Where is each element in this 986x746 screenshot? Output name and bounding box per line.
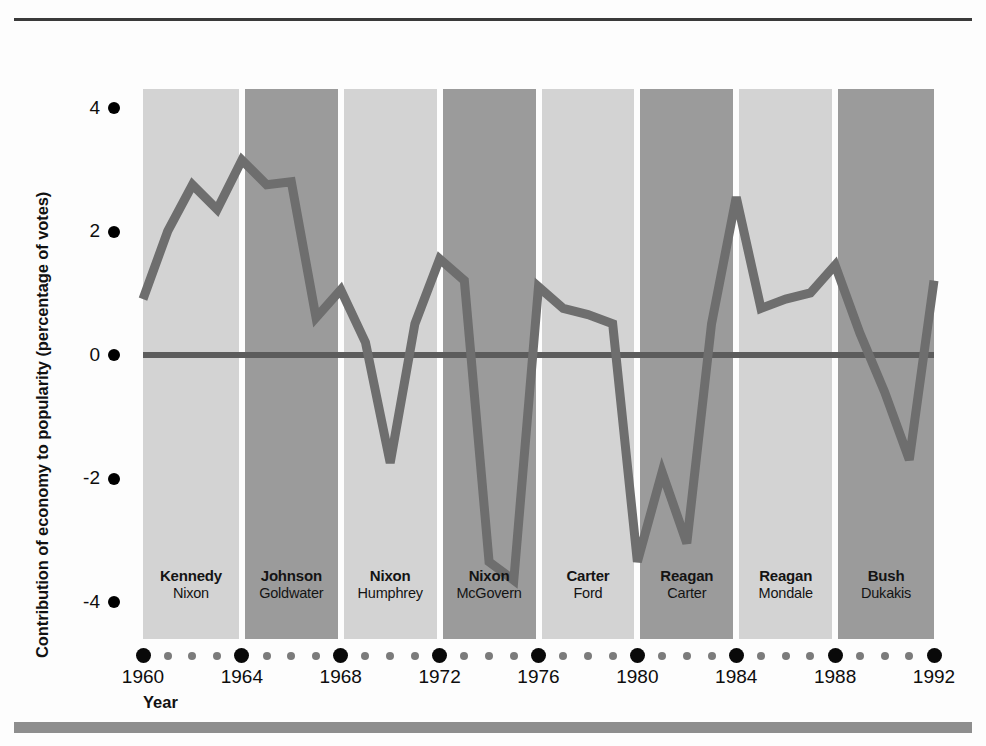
y-axis-tick-dot (108, 349, 120, 361)
y-axis-tick-label: 2 (89, 220, 100, 242)
x-axis-minor-tick-dot (559, 652, 567, 660)
x-axis-minor-tick-dot (881, 652, 889, 660)
election-winner-label: Bush (838, 567, 934, 585)
y-axis-tick-dot (108, 473, 120, 485)
x-axis-tick-label: 1960 (103, 666, 183, 688)
x-axis-tick-label: 1964 (202, 666, 282, 688)
x-axis-tick-label: 1988 (795, 666, 875, 688)
x-axis-major-tick-dot (136, 648, 151, 663)
election-loser-label: Ford (542, 585, 635, 602)
x-axis-minor-tick-dot (658, 652, 666, 660)
y-axis-title: Contribution of economy to popularity (p… (28, 18, 56, 658)
x-axis-major-tick-dot (828, 648, 843, 663)
election-loser-label: Nixon (143, 585, 239, 602)
election-loser-label: Goldwater (245, 585, 338, 602)
bottom-rule-bar (14, 722, 972, 733)
election-loser-label: Humphrey (344, 585, 437, 602)
x-axis-tick-label: 1972 (400, 666, 480, 688)
x-axis-minor-tick-dot (411, 652, 419, 660)
x-axis-major-tick-dot (729, 648, 744, 663)
y-axis-tick-dot (108, 596, 120, 608)
x-axis-minor-tick-dot (164, 652, 172, 660)
y-axis-tick: 0 (60, 344, 120, 366)
x-axis-tick-label: 1976 (499, 666, 579, 688)
x-axis-major-tick-dot (432, 648, 447, 663)
x-axis-minor-tick-dot (683, 652, 691, 660)
election-band-label: ReaganMondale (739, 567, 832, 602)
election-loser-label: Mondale (739, 585, 832, 602)
chart-page: Contribution of economy to popularity (p… (0, 0, 986, 746)
y-axis-tick-dot (108, 102, 120, 114)
election-winner-label: Kennedy (143, 567, 239, 585)
x-axis-minor-tick-dot (287, 652, 295, 660)
election-band-label: KennedyNixon (143, 567, 239, 602)
x-axis-tick-label: 1968 (301, 666, 381, 688)
y-axis-tick: -2 (60, 467, 120, 489)
x-axis-title: Year (143, 693, 178, 712)
election-winner-label: Reagan (640, 567, 733, 585)
x-axis-major-tick-dot (234, 648, 249, 663)
x-axis-major-tick-dot (927, 648, 942, 663)
election-band-label: ReaganCarter (640, 567, 733, 602)
x-axis-minor-tick-dot (361, 652, 369, 660)
x-axis-minor-tick-dot (213, 652, 221, 660)
x-axis-minor-tick-dot (510, 652, 518, 660)
x-axis-minor-tick-dot (708, 652, 716, 660)
election-band-label: NixonMcGovern (443, 567, 536, 602)
y-axis-tick-dot (108, 226, 120, 238)
economy-contribution-line (143, 89, 934, 639)
x-axis-minor-tick-dot (188, 652, 196, 660)
x-axis-minor-tick-dot (782, 652, 790, 660)
x-axis-tick-label: 1980 (597, 666, 677, 688)
x-axis-minor-tick-dot (460, 652, 468, 660)
x-axis-minor-tick-dot (856, 652, 864, 660)
x-axis-minor-tick-dot (263, 652, 271, 660)
x-axis-tick-label: 1984 (696, 666, 776, 688)
x-axis-major-tick-dot (531, 648, 546, 663)
election-winner-label: Johnson (245, 567, 338, 585)
x-axis-minor-tick-dot (905, 652, 913, 660)
y-axis-tick-label: -4 (83, 591, 100, 613)
y-axis-tick: -4 (60, 591, 120, 613)
y-axis-tick-label: 4 (89, 97, 100, 119)
x-axis-minor-tick-dot (386, 652, 394, 660)
election-loser-label: McGovern (443, 585, 536, 602)
x-axis-minor-tick-dot (312, 652, 320, 660)
plot-area: KennedyNixonJohnsonGoldwaterNixonHumphre… (143, 89, 934, 639)
x-axis-major-tick-dot (333, 648, 348, 663)
election-band-label: NixonHumphrey (344, 567, 437, 602)
x-axis-minor-tick-dot (584, 652, 592, 660)
y-axis-tick: 4 (60, 97, 120, 119)
election-loser-label: Dukakis (838, 585, 934, 602)
election-winner-label: Reagan (739, 567, 832, 585)
x-axis-minor-tick-dot (485, 652, 493, 660)
election-band-label: BushDukakis (838, 567, 934, 602)
x-axis-minor-tick-dot (757, 652, 765, 660)
y-axis-tick-label: -2 (83, 467, 100, 489)
x-axis-major-tick-dot (630, 648, 645, 663)
y-axis-tick-label: 0 (89, 344, 100, 366)
election-band-label: CarterFord (542, 567, 635, 602)
x-axis-minor-tick-dot (609, 652, 617, 660)
x-axis-tick-label: 1992 (894, 666, 974, 688)
series-line-path (143, 160, 934, 580)
election-loser-label: Carter (640, 585, 733, 602)
top-divider-rule (14, 18, 972, 21)
election-winner-label: Nixon (443, 567, 536, 585)
y-axis-tick: 2 (60, 220, 120, 242)
x-axis-minor-tick-dot (806, 652, 814, 660)
election-winner-label: Carter (542, 567, 635, 585)
election-band-label: JohnsonGoldwater (245, 567, 338, 602)
election-winner-label: Nixon (344, 567, 437, 585)
